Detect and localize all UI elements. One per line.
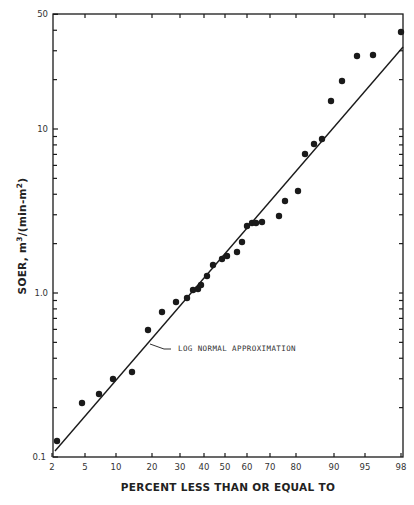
x-tick-label: 50 (220, 462, 231, 472)
data-point (224, 253, 230, 259)
x-tick-label: 95 (360, 462, 371, 472)
data-point (96, 391, 102, 397)
data-point (79, 400, 85, 406)
data-point (234, 249, 240, 255)
data-points (54, 29, 404, 444)
data-point (339, 78, 345, 84)
data-point (198, 282, 204, 288)
x-tick-label: 98 (396, 462, 407, 472)
data-point (282, 198, 288, 204)
x-axis-ticks: 251020304050607080909598 (49, 14, 406, 472)
data-point (276, 213, 282, 219)
data-point (370, 52, 376, 58)
data-point (354, 53, 360, 59)
x-tick-label: 40 (199, 462, 210, 472)
data-point (302, 151, 308, 157)
annotation-log-normal: LOG NORMAL APPROXIMATION (178, 344, 296, 353)
data-point (184, 295, 190, 301)
data-point (159, 309, 165, 315)
x-axis-title: PERCENT LESS THAN OR EQUAL TO (121, 481, 335, 493)
x-tick-label: 80 (291, 462, 302, 472)
x-tick-label: 30 (175, 462, 186, 472)
data-point (145, 327, 151, 333)
soer-probability-chart: 251020304050607080909598 50 10 1.0 0.1 S… (0, 0, 414, 505)
x-tick-label: 90 (329, 462, 340, 472)
x-tick-label: 10 (111, 462, 122, 472)
data-point (319, 136, 325, 142)
data-point (54, 438, 60, 444)
y-tick-label-10: 10 (37, 124, 48, 134)
data-point (173, 299, 179, 305)
data-point (398, 29, 404, 35)
plot-frame (53, 14, 403, 457)
x-tick-label: 5 (82, 462, 87, 472)
data-point (311, 141, 317, 147)
y-axis-ticks (53, 14, 403, 457)
data-point (204, 273, 210, 279)
y-tick-label-50: 50 (37, 9, 48, 19)
data-point (295, 188, 301, 194)
data-point (239, 239, 245, 245)
y-tick-label-0.1: 0.1 (32, 452, 46, 462)
annotation-leader (150, 344, 164, 349)
data-point (129, 369, 135, 375)
x-tick-label: 20 (147, 462, 158, 472)
data-point (110, 376, 116, 382)
y-tick-label-1: 1.0 (34, 288, 48, 298)
log-normal-line (55, 47, 403, 451)
data-point (210, 262, 216, 268)
plot-border (53, 14, 403, 457)
x-tick-label: 70 (265, 462, 276, 472)
fit-line (55, 47, 403, 451)
data-point (259, 219, 265, 225)
x-tick-label: 60 (242, 462, 253, 472)
y-axis-title: SOER, m3/(min-m2) (15, 178, 28, 295)
x-tick-label: 2 (49, 462, 54, 472)
data-point (253, 220, 259, 226)
data-point (328, 98, 334, 104)
